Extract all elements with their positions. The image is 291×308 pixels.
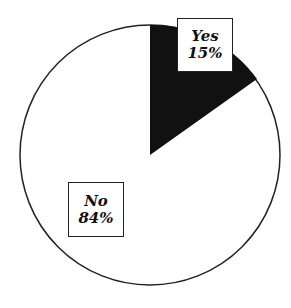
label-yes-name: Yes bbox=[178, 28, 232, 45]
label-yes-pct: 15% bbox=[178, 45, 232, 62]
label-no: No 84% bbox=[68, 182, 124, 237]
label-yes: Yes 15% bbox=[177, 18, 233, 72]
label-no-name: No bbox=[69, 193, 123, 210]
pie-chart bbox=[0, 0, 291, 308]
label-no-pct: 84% bbox=[69, 210, 123, 227]
